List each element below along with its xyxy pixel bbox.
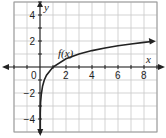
y-tick-label: −2	[24, 88, 36, 99]
y-tick-label: 4	[29, 10, 35, 21]
function-label: f(x)	[58, 47, 74, 60]
y-axis-label: y	[43, 1, 49, 13]
x-axis-label: x	[145, 53, 151, 65]
x-axis-arrow-right-icon	[158, 64, 165, 70]
curve-arrow-right-icon	[149, 38, 156, 45]
y-tick-label: 2	[29, 36, 35, 47]
x-tick-label: 0	[31, 70, 37, 81]
x-tick-label: 2	[63, 70, 69, 81]
log-function-graph: 0246842−2−4 f(x) x y	[0, 0, 166, 138]
y-tick-label: −4	[24, 114, 36, 125]
x-tick-label: 6	[115, 70, 121, 81]
x-axis-arrow-left-icon	[2, 64, 9, 70]
x-tick-label: 4	[89, 70, 95, 81]
x-tick-label: 8	[141, 70, 147, 81]
